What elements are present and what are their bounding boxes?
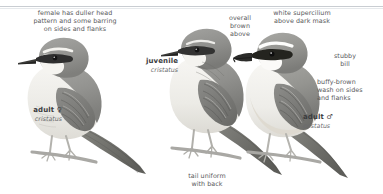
- note-female-head: female has duller head pattern and some …: [19, 9, 131, 34]
- label-juvenile: juvenile cristatus: [126, 57, 178, 74]
- note-stubby-bill: stubby bill: [320, 52, 370, 68]
- male-perch: [248, 152, 320, 162]
- note-buffy-brown: buffy-brown wash on sides and flanks: [317, 78, 383, 103]
- female-eye: [53, 56, 58, 61]
- label-adult-male-name: adult ♂: [303, 113, 361, 121]
- plate-divider-rule: [0, 6, 383, 7]
- female-perch: [32, 152, 96, 162]
- juvenile-perch: [172, 148, 240, 158]
- label-adult-female-name: adult ♀: [4, 106, 62, 114]
- female-tail: [78, 126, 146, 174]
- male-eye: [270, 52, 275, 57]
- label-juvenile-name: juvenile: [126, 57, 178, 65]
- bird-plate: female has duller head pattern and some …: [0, 0, 383, 194]
- label-adult-male: adult ♂ cristatus: [303, 113, 361, 130]
- label-adult-female: adult ♀ cristatus: [4, 106, 62, 123]
- label-adult-female-sci: cristatus: [4, 115, 62, 123]
- label-juvenile-sci: cristatus: [126, 66, 178, 74]
- note-white-supercilium: white supercilium above dark mask: [256, 9, 348, 25]
- label-adult-male-sci: cristatus: [303, 122, 361, 130]
- juvenile-eye: [195, 48, 200, 53]
- male-bill: [233, 53, 252, 61]
- note-tail-uniform: tail uniform with back: [176, 172, 238, 188]
- note-overall-brown: overall brown above: [219, 14, 261, 39]
